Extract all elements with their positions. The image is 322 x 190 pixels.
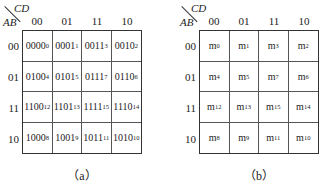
kmap-cell: m12 (200, 92, 230, 123)
kmap-cell: m11 (259, 123, 289, 154)
cell-index: 9 (75, 134, 78, 141)
column-header: 00 (22, 15, 52, 27)
cell-index: 1 (75, 42, 78, 49)
cell-index: 15 (102, 103, 109, 110)
cell-index: 13 (244, 103, 251, 110)
cell-index: 5 (75, 73, 78, 80)
cell-value: 1111 (84, 101, 103, 112)
row-header: 00 (0, 40, 19, 52)
cell-value: m (209, 71, 217, 82)
kmap-cell: m3 (259, 31, 289, 62)
cell-value: 0111 (85, 71, 104, 82)
kmap-cell: 00000 (23, 31, 53, 62)
kmap-cell: 01117 (82, 62, 112, 93)
kmap-cell: 10019 (53, 123, 83, 154)
cell-value: 1010 (113, 132, 133, 143)
cell-index: 13 (73, 103, 80, 110)
kmap-cell: m5 (230, 62, 260, 93)
column-header: 10 (289, 15, 319, 27)
cell-index: 1 (246, 42, 249, 49)
cell-index: 0 (217, 42, 220, 49)
cell-index: 15 (274, 103, 281, 110)
cell-value: m (268, 71, 276, 82)
column-header: 11 (259, 15, 289, 27)
kmap-cell: 01015 (53, 62, 83, 93)
cell-value: m (268, 40, 276, 51)
kmap-cell: 00113 (82, 31, 112, 62)
cell-value: m (266, 101, 274, 112)
kmap-cell: m6 (289, 62, 319, 93)
column-variable-label: CD (14, 2, 29, 14)
row-header: 11 (177, 102, 196, 114)
cell-value: m (266, 132, 274, 143)
kmap-cell: 110113 (53, 92, 83, 123)
cell-value: m (298, 40, 306, 51)
kmap-cell: 01106 (112, 62, 142, 93)
cell-value: m (209, 40, 217, 51)
cell-value: m (238, 40, 246, 51)
kmap-cell: m1 (230, 31, 260, 62)
cell-value: 0010 (115, 40, 135, 51)
cell-value: 0110 (115, 71, 135, 82)
cell-index: 12 (215, 103, 222, 110)
cell-index: 4 (46, 73, 49, 80)
cell-value: 1001 (55, 132, 75, 143)
karnaugh-map-a: CD AB 00 01 11 10 00 01 11 10 0000000011… (0, 0, 160, 190)
column-header: 11 (82, 15, 112, 27)
kmap-grid: 0000000011001130010201004010150111701106… (22, 30, 142, 154)
cell-value: m (209, 132, 217, 143)
kmap-cell: m2 (289, 31, 319, 62)
cell-value: m (298, 71, 306, 82)
kmap-cell: m13 (230, 92, 260, 123)
cell-index: 14 (133, 103, 140, 110)
cell-value: 1011 (83, 132, 103, 143)
cell-index: 6 (134, 73, 137, 80)
kmap-cell: 101111 (82, 123, 112, 154)
row-header: 01 (0, 71, 19, 83)
kmap-cell: m9 (230, 123, 260, 154)
kmap-cell: m15 (259, 92, 289, 123)
kmap-cell: m4 (200, 62, 230, 93)
cell-index: 10 (304, 134, 311, 141)
kmap-cell: 111014 (112, 92, 142, 123)
caption: （a） (22, 166, 142, 184)
kmap-cell: m8 (200, 123, 230, 154)
cell-index: 3 (276, 42, 279, 49)
row-variable-label: AB (3, 16, 16, 28)
cell-value: m (238, 71, 246, 82)
cell-value: 0100 (26, 71, 46, 82)
kmap-cell: 00102 (112, 31, 142, 62)
kmap-cell: 01004 (23, 62, 53, 93)
cell-value: 0000 (26, 40, 46, 51)
column-header: 01 (229, 15, 259, 27)
karnaugh-map-b: CD AB 00 01 11 10 00 01 11 10 m0m1m3m2m4… (177, 0, 322, 190)
cell-value: 0011 (85, 40, 105, 51)
cell-index: 8 (46, 134, 49, 141)
kmap-cell: 110012 (23, 92, 53, 123)
column-header: 00 (199, 15, 229, 27)
row-variable-label: AB (180, 16, 193, 28)
cell-index: 7 (276, 73, 279, 80)
kmap-cell: m10 (289, 123, 319, 154)
cell-value: 1101 (54, 101, 74, 112)
kmap-cell: 101010 (112, 123, 142, 154)
cell-value: m (238, 132, 246, 143)
cell-value: 0101 (55, 71, 75, 82)
cell-value: 0001 (55, 40, 75, 51)
row-header: 11 (0, 102, 19, 114)
cell-index: 2 (135, 42, 138, 49)
cell-index: 11 (274, 134, 280, 141)
column-header: 01 (52, 15, 82, 27)
kmap-cell: 111115 (82, 92, 112, 123)
cell-value: 1000 (26, 132, 46, 143)
cell-index: 5 (246, 73, 249, 80)
column-header: 10 (112, 15, 142, 27)
kmap-cell: m7 (259, 62, 289, 93)
kmap-grid: m0m1m3m2m4m5m7m6m12m13m15m14m8m9m11m10 (199, 30, 319, 154)
row-header: 00 (177, 40, 196, 52)
cell-index: 9 (246, 134, 249, 141)
cell-index: 6 (306, 73, 309, 80)
kmap-cell: m14 (289, 92, 319, 123)
cell-index: 12 (44, 103, 51, 110)
cell-index: 4 (217, 73, 220, 80)
